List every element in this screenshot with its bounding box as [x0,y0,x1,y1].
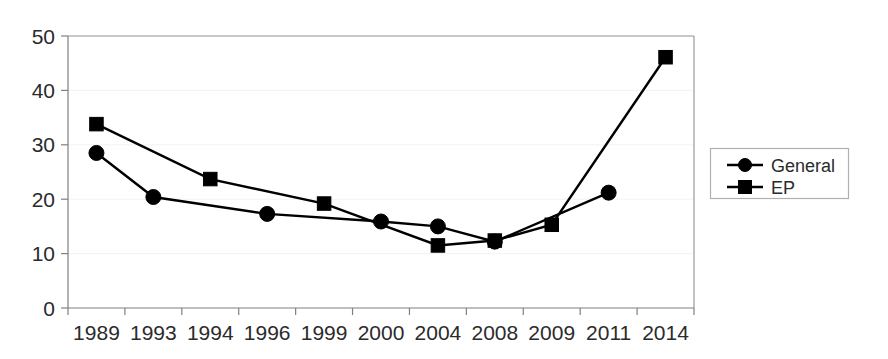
y-tick-label: 50 [32,25,55,48]
data-point-circle-icon[interactable] [601,185,616,200]
x-tick-label: 1993 [130,321,177,344]
data-point-square-icon[interactable] [317,197,331,211]
x-tick-label: 2014 [642,321,689,344]
data-point-square-icon[interactable] [204,172,218,186]
x-tick-label: 1999 [301,321,348,344]
data-point-circle-icon[interactable] [89,145,104,160]
x-tick-label: 2011 [586,321,631,344]
x-tick-label: 1996 [244,321,291,344]
data-point-circle-icon[interactable] [430,219,445,234]
data-point-square-icon[interactable] [488,234,502,248]
data-point-square-icon[interactable] [659,50,673,64]
data-point-circle-icon[interactable] [260,206,275,221]
x-tick-label: 1994 [187,321,234,344]
chart-canvas: 01020304050 1989199319941996199920002004… [0,0,888,359]
legend-label-general: General [771,156,835,176]
data-point-square-icon[interactable] [90,117,104,131]
chart-legend: General EP [711,149,849,199]
y-tick-label: 40 [32,79,55,102]
x-tick-label: 1989 [73,321,120,344]
data-point-circle-icon[interactable] [146,190,161,205]
legend-marker-circle-icon [739,159,752,172]
line-chart: 01020304050 1989199319941996199920002004… [0,0,888,359]
y-tick-label: 20 [32,188,55,211]
y-tick-label: 0 [43,297,55,320]
x-tick-label: 2009 [528,321,575,344]
y-tick-label: 30 [32,133,55,156]
legend-marker-square-icon [739,181,752,194]
legend-label-ep: EP [771,178,795,198]
y-tick-label: 10 [32,242,55,265]
x-tick-label: 2000 [358,321,405,344]
x-tick-label: 2008 [471,321,518,344]
x-tick-label: 2004 [415,321,462,344]
data-point-square-icon[interactable] [545,218,559,232]
data-point-square-icon[interactable] [431,239,445,253]
